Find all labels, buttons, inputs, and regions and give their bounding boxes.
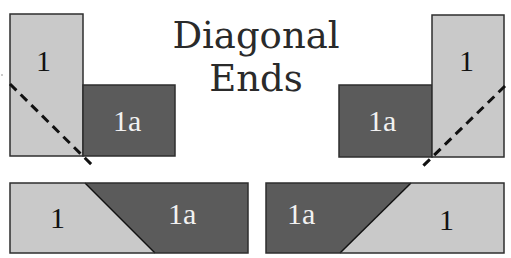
diagram-title: Diagonal Ends bbox=[120, 14, 392, 100]
bottom-left-label-1a: 1a bbox=[168, 199, 196, 229]
stray-dot bbox=[1, 74, 3, 76]
top-left-label-1: 1 bbox=[36, 46, 51, 76]
top-right-piece-1 bbox=[432, 15, 504, 157]
bottom-left-diagram bbox=[10, 183, 248, 253]
top-right-label-1a: 1a bbox=[368, 106, 396, 136]
top-left-piece-1 bbox=[10, 14, 83, 156]
bottom-right-label-1: 1 bbox=[439, 205, 454, 235]
top-right-label-1: 1 bbox=[459, 46, 474, 76]
bottom-right-label-1a: 1a bbox=[287, 199, 315, 229]
bottom-left-label-1: 1 bbox=[50, 203, 65, 233]
top-left-label-1a: 1a bbox=[113, 106, 141, 136]
